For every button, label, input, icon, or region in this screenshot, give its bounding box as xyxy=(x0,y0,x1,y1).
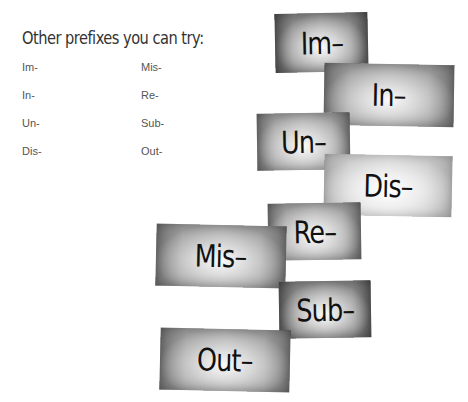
prefix-card-label: Un– xyxy=(281,123,327,160)
prefix-list-item: Re- xyxy=(141,89,159,101)
prefix-card-out: Out– xyxy=(159,328,290,393)
prefix-list-item: Sub- xyxy=(141,117,164,129)
prefix-list-item: Dis- xyxy=(22,145,42,157)
prefix-list-item: Mis- xyxy=(141,61,162,73)
prefix-list-item: Un- xyxy=(22,117,40,129)
prefix-card-label: Re– xyxy=(293,213,336,250)
prefix-card-label: Im– xyxy=(300,24,343,61)
page-heading: Other prefixes you can try: xyxy=(22,28,204,48)
prefix-card-label: Sub– xyxy=(296,291,354,328)
prefix-card-label: Out– xyxy=(197,341,253,378)
prefix-card-label: In– xyxy=(372,77,406,114)
prefix-list-item: In- xyxy=(22,89,35,101)
prefix-card-label: Dis– xyxy=(363,167,413,204)
prefix-list-item: Im- xyxy=(22,61,38,73)
prefix-list-item: Out- xyxy=(141,145,162,157)
prefix-card-mis: Mis– xyxy=(155,224,286,289)
prefix-card-label: Mis– xyxy=(195,237,247,274)
prefix-card-sub: Sub– xyxy=(279,280,372,339)
